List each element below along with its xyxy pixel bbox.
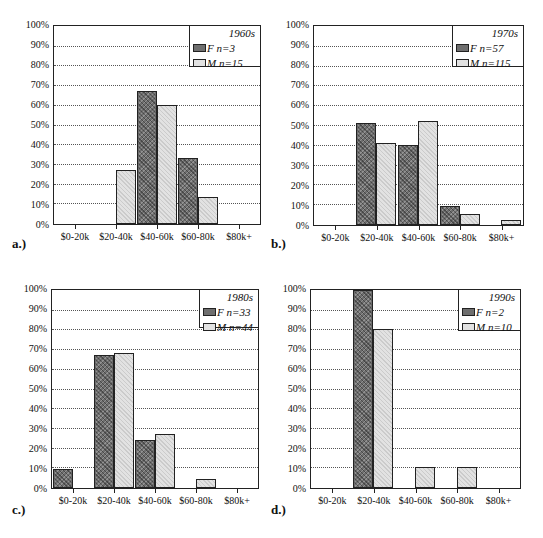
x-tick-mark: [196, 489, 197, 493]
chart-legend: 1970sF n=57M n=115: [452, 25, 524, 67]
legend-label: F n=33: [217, 306, 250, 318]
x-tick-mark: [198, 225, 199, 229]
y-tick-label: 0%: [272, 484, 306, 494]
x-tick-mark: [116, 225, 117, 229]
y-tick-label: 90%: [15, 40, 49, 50]
bar-male: [457, 467, 477, 488]
y-tick-label: 100%: [15, 20, 49, 30]
legend-swatch-icon: [462, 323, 475, 331]
gridline: [311, 408, 520, 409]
y-tick-label: 70%: [272, 344, 306, 354]
gridline: [52, 408, 258, 409]
y-tick-label: 60%: [15, 100, 49, 110]
y-tick-label: 80%: [15, 60, 49, 70]
bar-male: [373, 329, 393, 488]
legend-swatch-icon: [456, 59, 469, 67]
panel-label: a.): [12, 236, 26, 252]
y-tick-label: 60%: [275, 100, 309, 110]
y-tick-label: 60%: [13, 364, 47, 374]
panel-label: d.): [271, 502, 286, 518]
gridline: [311, 428, 520, 429]
gridline: [311, 349, 520, 350]
y-tick-label: 0%: [275, 221, 309, 231]
bar-male: [157, 105, 177, 224]
bar-male: [116, 170, 136, 224]
bar-female: [135, 440, 155, 488]
panel-label: b.): [271, 236, 286, 252]
y-tick-label: 80%: [275, 60, 309, 70]
y-tick-label: 50%: [272, 384, 306, 394]
legend-title: 1960s: [190, 26, 260, 40]
y-tick-label: 40%: [15, 140, 49, 150]
legend-title: 1990s: [459, 290, 520, 304]
y-tick-label: 90%: [13, 304, 47, 314]
x-tick-mark: [73, 489, 74, 493]
x-tick-label: $80k+: [477, 233, 527, 243]
y-tick-label: 100%: [13, 284, 47, 294]
legend-label: M n=115: [470, 57, 511, 69]
x-tick-mark: [502, 226, 503, 230]
x-tick-mark: [237, 489, 238, 493]
legend-label: M n=44: [217, 321, 253, 333]
chart-legend: 1960sF n=3M n=15: [189, 25, 261, 67]
legend-item-female: F n=57: [453, 40, 523, 55]
gridline: [311, 448, 520, 449]
legend-swatch-icon: [193, 44, 206, 52]
y-tick-label: 0%: [15, 220, 49, 230]
gridline: [311, 369, 520, 370]
gridline: [314, 85, 523, 86]
legend-item-female: F n=3: [190, 40, 260, 55]
y-tick-label: 40%: [275, 141, 309, 151]
y-tick-label: 100%: [275, 20, 309, 30]
bar-female: [440, 206, 460, 225]
bar-male: [501, 220, 521, 225]
legend-item-female: F n=33: [200, 304, 258, 319]
chart-legend: 1980sF n=33M n=44: [199, 289, 259, 328]
x-tick-mark: [416, 489, 417, 493]
y-tick-label: 70%: [15, 80, 49, 90]
bar-male: [198, 197, 218, 224]
legend-item-male: M n=15: [190, 55, 260, 70]
x-tick-mark: [157, 225, 158, 229]
x-tick-mark: [335, 226, 336, 230]
y-tick-label: 50%: [275, 121, 309, 131]
y-tick-label: 10%: [15, 200, 49, 210]
gridline: [54, 85, 260, 86]
y-tick-label: 40%: [13, 404, 47, 414]
y-tick-label: 20%: [15, 180, 49, 190]
gridline: [52, 369, 258, 370]
y-tick-label: 70%: [13, 344, 47, 354]
gridline: [52, 349, 258, 350]
y-tick-label: 20%: [275, 181, 309, 191]
legend-title: 1970s: [453, 26, 523, 40]
legend-item-male: M n=44: [200, 319, 258, 334]
x-tick-mark: [155, 489, 156, 493]
y-tick-label: 90%: [275, 40, 309, 50]
bar-male: [415, 467, 435, 488]
x-tick-mark: [377, 226, 378, 230]
bar-male: [418, 121, 438, 225]
bar-male: [196, 479, 216, 488]
bar-female: [137, 91, 157, 224]
x-tick-mark: [499, 489, 500, 493]
legend-swatch-icon: [456, 44, 469, 52]
x-tick-mark: [460, 226, 461, 230]
bar-female: [53, 469, 73, 488]
y-tick-label: 30%: [275, 161, 309, 171]
legend-item-male: M n=10: [459, 319, 520, 334]
y-tick-label: 10%: [272, 464, 306, 474]
legend-label: F n=2: [476, 306, 504, 318]
legend-label: M n=15: [207, 57, 243, 69]
y-tick-label: 100%: [272, 284, 306, 294]
x-tick-mark: [114, 489, 115, 493]
legend-swatch-icon: [203, 323, 216, 331]
y-tick-label: 50%: [15, 120, 49, 130]
bar-female: [398, 145, 418, 225]
gridline: [52, 428, 258, 429]
legend-title: 1980s: [200, 290, 258, 304]
y-tick-label: 20%: [272, 444, 306, 454]
y-tick-label: 0%: [13, 484, 47, 494]
panel-label: c.): [12, 502, 25, 518]
gridline: [314, 105, 523, 106]
legend-swatch-icon: [203, 308, 216, 316]
